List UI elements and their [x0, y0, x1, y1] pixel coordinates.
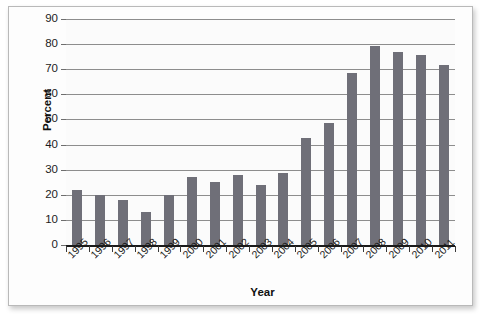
bar — [233, 175, 243, 245]
bar — [370, 46, 380, 245]
y-axis-tick-label: 30 — [18, 164, 58, 175]
y-axis-tick-label: 10 — [18, 214, 58, 225]
bar — [301, 138, 311, 245]
y-axis-tick-label: 90 — [18, 13, 58, 24]
y-axis-tick-label: 80 — [18, 38, 58, 49]
gridline — [66, 19, 455, 20]
bar — [324, 123, 334, 245]
plot-area — [66, 19, 455, 245]
y-axis-title: Percent — [41, 75, 53, 145]
gridline — [66, 44, 455, 45]
chart-figure: 9080706050403020100 19951996199719981999… — [0, 0, 489, 323]
y-axis-tick-label: 20 — [18, 189, 58, 200]
y-axis-tick-label: 0 — [18, 239, 58, 250]
bar — [393, 52, 403, 245]
x-axis-tick-mark — [455, 246, 456, 252]
bar — [439, 65, 449, 245]
x-axis-title: Year — [0, 286, 489, 298]
y-axis-tick-label: 70 — [18, 63, 58, 74]
bar — [416, 55, 426, 245]
bar — [347, 73, 357, 245]
